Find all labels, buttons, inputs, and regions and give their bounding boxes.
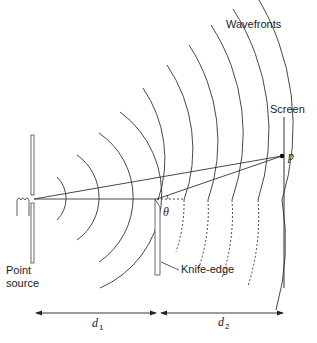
d2-subscript: 2 <box>225 322 230 331</box>
knife-edge <box>155 199 160 275</box>
wavefronts-label: Wavefronts <box>226 18 282 30</box>
theta-label: θ <box>163 205 169 219</box>
rays <box>34 156 282 199</box>
point-p-marker <box>280 154 285 159</box>
source-coil-icon <box>17 198 29 216</box>
d2-label: d <box>218 315 225 329</box>
slit-barrier <box>31 135 34 263</box>
point-source-label-line2: source <box>6 277 39 289</box>
d1-label: d <box>92 316 99 330</box>
knife-edge-diffraction-diagram: Wavefronts Screen p θ Point source Knife… <box>0 0 317 343</box>
diagram-canvas: Wavefronts Screen p θ Point source Knife… <box>0 0 317 343</box>
knife-edge-leader <box>161 262 179 270</box>
point-p-label: p <box>287 149 294 163</box>
d1-subscript: 1 <box>99 323 104 332</box>
knife-edge-label: Knife-edge <box>181 263 234 275</box>
wavefronts <box>57 0 293 310</box>
point-source-label-line1: Point <box>6 264 31 276</box>
screen-label: Screen <box>270 103 305 115</box>
